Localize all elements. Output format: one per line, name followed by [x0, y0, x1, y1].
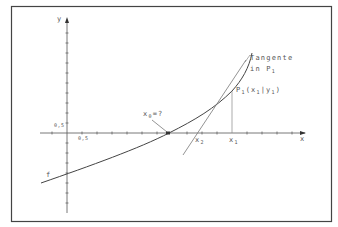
- curve-f-label: f: [46, 172, 51, 179]
- x0-pointer-line: [152, 120, 167, 132]
- tangent-label-line1: Tangente: [250, 55, 293, 62]
- x-axis-label: x: [300, 136, 305, 143]
- x0-label: x0=?: [143, 111, 163, 119]
- point-p1-label: P1(x1|y1): [236, 87, 281, 95]
- frame-border: [12, 7, 332, 222]
- y-axis-label: y: [57, 16, 62, 23]
- y-unit-label: 0,5: [54, 123, 65, 128]
- x-unit-label: 0,5: [78, 136, 89, 141]
- x2-label: x2: [195, 137, 205, 145]
- tangent-label-line2: in P1: [250, 66, 276, 74]
- y-axis: [65, 17, 69, 213]
- newton-method-diagram: y x 0,5 0,5 f x0=? x2 x1 P1(x1|y1) Tange…: [0, 0, 338, 227]
- x1-label: x1: [229, 137, 239, 145]
- y-axis-arrow-icon: [65, 17, 69, 23]
- x0-point-marker: [166, 132, 170, 135]
- diagram-canvas: [0, 0, 338, 227]
